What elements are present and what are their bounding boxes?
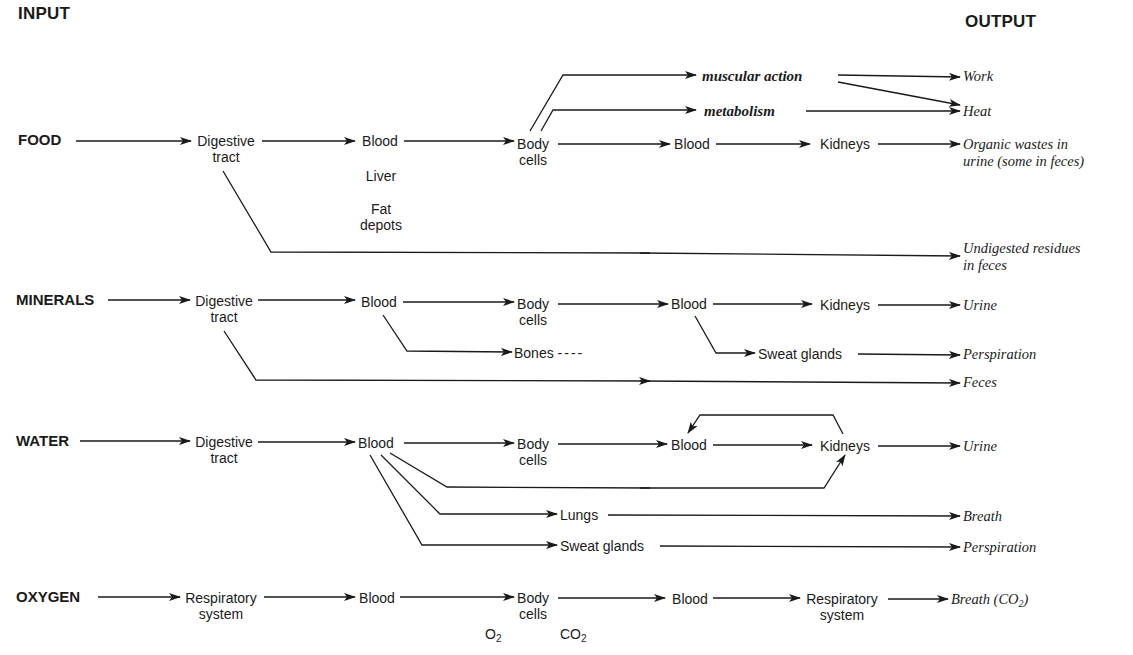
node-sweat-glands: Sweat glands (758, 346, 842, 362)
node-body-cells: Bodycells (517, 436, 549, 468)
process-metabolism: metabolism (704, 103, 775, 119)
node-blood: Blood (672, 591, 708, 607)
output-feces: Feces (963, 374, 997, 391)
node-digestive-tract: Digestivetract (197, 133, 255, 165)
node-blood: Blood (362, 133, 398, 149)
flow-arrows (0, 0, 1133, 655)
node-body-cells: Bodycells (517, 590, 549, 622)
label-o2: O2 (485, 626, 501, 647)
node-fat-depots: Fatdepots (360, 201, 402, 233)
node-blood: Blood (671, 437, 707, 453)
output-perspiration: Perspiration (963, 539, 1036, 556)
output-organic-wastes: Organic wastes inurine (some in feces) (963, 136, 1084, 170)
node-respiratory-system: Respiratorysystem (806, 591, 878, 623)
source-food: FOOD (18, 132, 61, 148)
node-body-cells: Bodycells (517, 296, 549, 328)
node-blood: Blood (359, 590, 395, 606)
node-blood: Blood (358, 435, 394, 451)
node-body-cells: Bodycells (517, 136, 549, 168)
node-digestive-tract: Digestivetract (195, 434, 253, 466)
output-work: Work (963, 68, 993, 85)
source-water: WATER (16, 433, 69, 449)
node-blood: Blood (671, 296, 707, 312)
source-oxygen: OXYGEN (16, 589, 80, 605)
node-respiratory-system: Respiratorysystem (185, 590, 257, 622)
node-kidneys: Kidneys (820, 136, 870, 152)
process-muscular-action: muscular action (702, 68, 802, 84)
output-undigested-residues: Undigested residuesin feces (963, 240, 1080, 274)
node-blood: Blood (674, 136, 710, 152)
output-perspiration: Perspiration (963, 346, 1036, 363)
node-digestive-tract: Digestivetract (195, 293, 253, 325)
node-bones: Bones ---- (514, 345, 584, 361)
node-liver: Liver (366, 168, 396, 184)
node-kidneys: Kidneys (820, 297, 870, 313)
output-header: OUTPUT (965, 14, 1036, 30)
output-breath-co2: Breath (CO2) (951, 591, 1028, 612)
label-co2: CO2 (560, 626, 587, 647)
output-urine: Urine (963, 438, 997, 455)
node-sweat-glands: Sweat glands (560, 538, 644, 554)
dashed-continuation: ---- (558, 345, 585, 361)
input-header: INPUT (18, 6, 70, 22)
output-heat: Heat (963, 103, 991, 120)
output-urine: Urine (963, 297, 997, 314)
node-kidneys: Kidneys (820, 438, 870, 454)
output-breath: Breath (963, 508, 1002, 525)
node-lungs: Lungs (560, 507, 598, 523)
node-blood: Blood (361, 294, 397, 310)
source-minerals: MINERALS (16, 292, 94, 308)
